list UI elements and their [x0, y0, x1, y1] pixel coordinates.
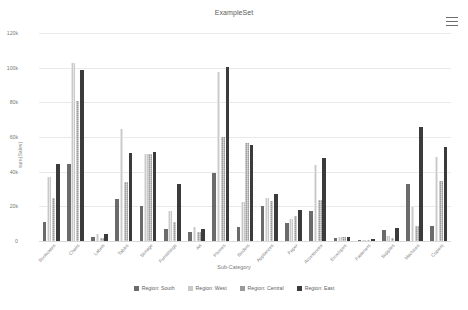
bar[interactable] [226, 67, 230, 241]
bar-group [160, 33, 184, 241]
bar[interactable] [411, 207, 415, 241]
bar[interactable] [197, 232, 201, 241]
y-axis-tick-label: 20k [10, 203, 18, 209]
bar-group [233, 33, 257, 241]
bar[interactable] [148, 154, 152, 241]
bar[interactable] [309, 211, 313, 241]
bar[interactable] [188, 232, 192, 241]
bar[interactable] [153, 152, 157, 241]
bar[interactable] [406, 184, 410, 241]
bar-group [112, 33, 136, 241]
bar[interactable] [444, 147, 448, 241]
bar[interactable] [298, 210, 302, 241]
bar[interactable] [237, 227, 241, 241]
bar[interactable] [120, 129, 124, 241]
bar[interactable] [173, 222, 177, 241]
bar[interactable] [124, 182, 128, 241]
bar[interactable] [245, 143, 249, 241]
bar[interactable] [164, 229, 168, 241]
bar[interactable] [80, 70, 84, 241]
bar[interactable] [100, 238, 104, 241]
legend-label: Region: East [305, 285, 335, 291]
bar[interactable] [270, 201, 274, 241]
bar[interactable] [334, 238, 338, 241]
bar[interactable] [96, 234, 100, 241]
bar[interactable] [338, 237, 342, 241]
bar[interactable] [115, 199, 119, 241]
bar[interactable] [261, 206, 265, 241]
legend-label: Region: Central [248, 285, 284, 291]
x-axis-tick-label: Art [195, 243, 203, 251]
x-axis-tick-label: Machines [403, 243, 420, 261]
hamburger-menu-icon[interactable] [446, 16, 458, 27]
bar-group [403, 33, 427, 241]
bar[interactable] [358, 240, 362, 241]
bar[interactable] [212, 173, 216, 241]
bar[interactable] [342, 237, 346, 241]
bar[interactable] [318, 200, 322, 241]
legend-swatch [134, 286, 139, 291]
bar[interactable] [386, 236, 390, 241]
bar[interactable] [91, 237, 95, 241]
bar[interactable] [217, 72, 221, 241]
bar-group [87, 33, 111, 241]
bar[interactable] [193, 227, 197, 241]
bar-group [281, 33, 305, 241]
bar[interactable] [43, 222, 47, 241]
bar[interactable] [129, 153, 133, 241]
bar[interactable] [371, 239, 375, 241]
bar[interactable] [47, 177, 51, 241]
bar[interactable] [289, 219, 293, 241]
bar[interactable] [347, 237, 351, 241]
legend-item[interactable]: Region: East [297, 285, 335, 291]
bar[interactable] [274, 194, 278, 241]
bar[interactable] [265, 198, 269, 241]
bar[interactable] [430, 226, 434, 241]
bar[interactable] [382, 230, 386, 241]
x-axis-tick-label: Envelopes [329, 243, 347, 262]
y-axis-tick-label: 120k [7, 30, 18, 36]
x-axis-tick-label: Supplies [380, 243, 396, 259]
bar[interactable] [285, 223, 289, 241]
legend-item[interactable]: Region: Central [240, 285, 284, 291]
bar[interactable] [56, 164, 60, 241]
bar[interactable] [395, 228, 399, 241]
bar[interactable] [71, 63, 75, 241]
legend-item[interactable]: Region: West [188, 285, 227, 291]
bar[interactable] [221, 137, 225, 241]
bar[interactable] [294, 216, 298, 241]
bar[interactable] [140, 206, 144, 241]
bar-group [63, 33, 87, 241]
bar[interactable] [201, 229, 205, 241]
bar[interactable] [367, 240, 371, 241]
bar[interactable] [144, 154, 148, 241]
bar[interactable] [314, 165, 318, 241]
bar[interactable] [435, 157, 439, 241]
bar[interactable] [104, 234, 108, 241]
x-axis-tick-labels: BookcasesChairsLabelsTablesStorageFurnis… [39, 243, 451, 265]
legend-swatch [240, 286, 245, 291]
bar[interactable] [362, 240, 366, 241]
bars-layer [39, 33, 451, 241]
legend-item[interactable]: Region: South [134, 285, 175, 291]
bar[interactable] [76, 101, 80, 241]
bar[interactable] [439, 181, 443, 241]
y-axis-tick-label: 100k [7, 65, 18, 71]
bar[interactable] [67, 164, 71, 241]
bar[interactable] [168, 211, 172, 241]
bar[interactable] [177, 184, 181, 241]
x-axis-tick-label: Storage [139, 243, 154, 258]
x-axis-tick-label: Phones [212, 243, 226, 258]
bar[interactable] [419, 127, 423, 241]
bar[interactable] [415, 226, 419, 241]
bar-group [330, 33, 354, 241]
legend-swatch [297, 286, 302, 291]
legend-label: Region: South [142, 285, 175, 291]
x-axis-tick-label: Paper [287, 243, 299, 255]
bar[interactable] [241, 202, 245, 241]
bar[interactable] [391, 238, 395, 241]
bar[interactable] [322, 158, 326, 241]
bar-group [209, 33, 233, 241]
bar[interactable] [52, 198, 56, 241]
bar[interactable] [250, 145, 254, 241]
